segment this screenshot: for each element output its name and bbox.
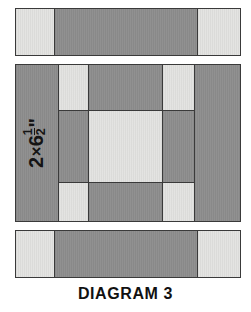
center-nine-patch-block: 2×612" bbox=[15, 64, 241, 222]
fabric-patch-dark bbox=[15, 64, 59, 222]
fabric-patch-dark bbox=[54, 8, 198, 56]
fabric-patch-light bbox=[15, 8, 55, 56]
fabric-patch-light bbox=[197, 8, 241, 56]
fabric-patch-dark bbox=[194, 64, 241, 222]
fabric-patch-light bbox=[15, 230, 55, 278]
fabric-patch-dark bbox=[54, 230, 198, 278]
fabric-patch-light bbox=[58, 64, 89, 111]
fabric-patch-dark bbox=[88, 182, 163, 222]
fabric-patch-dark bbox=[162, 110, 195, 183]
fabric-patch-light bbox=[197, 230, 241, 278]
fabric-patch-light bbox=[88, 110, 163, 183]
fabric-patch-light bbox=[58, 182, 89, 222]
bottom-sashing-strip bbox=[15, 230, 241, 278]
diagram-caption: DIAGRAM 3 bbox=[0, 285, 251, 303]
fabric-patch-dark bbox=[58, 110, 89, 183]
quilt-diagram: 2×612" DIAGRAM 3 bbox=[0, 0, 251, 312]
top-sashing-strip bbox=[15, 8, 241, 56]
fabric-patch-dark bbox=[88, 64, 163, 111]
fabric-patch-light bbox=[162, 64, 195, 111]
fabric-patch-light bbox=[162, 182, 195, 222]
